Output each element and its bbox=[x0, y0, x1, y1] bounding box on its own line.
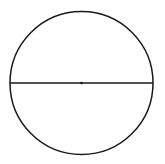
center-point bbox=[80, 82, 83, 85]
diagram-canvas bbox=[0, 0, 165, 164]
